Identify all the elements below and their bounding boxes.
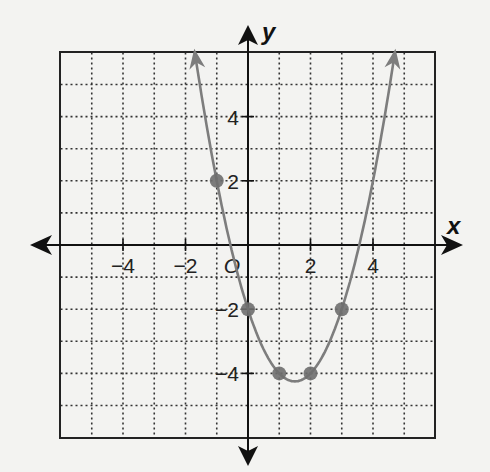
data-point (304, 366, 318, 380)
data-point (335, 302, 349, 316)
y-tick-label: −2 (215, 298, 239, 321)
y-tick-label: −4 (215, 362, 239, 385)
y-tick-label: 2 (227, 170, 239, 193)
coordinate-plane: yx −4−22442−2−4O (0, 0, 490, 472)
parabola-path (195, 53, 395, 382)
x-tick-label: −2 (174, 254, 198, 277)
parabola-curve (189, 49, 400, 382)
data-point (241, 302, 255, 316)
y-axis-label: y (261, 18, 277, 45)
x-axis-label: x (445, 212, 462, 239)
y-tick-label: 4 (227, 106, 239, 129)
x-tick-label: 4 (367, 254, 379, 277)
x-tick-label: 2 (305, 254, 317, 277)
x-tick-label: −4 (111, 254, 135, 277)
data-point (210, 174, 224, 188)
data-point (272, 366, 286, 380)
